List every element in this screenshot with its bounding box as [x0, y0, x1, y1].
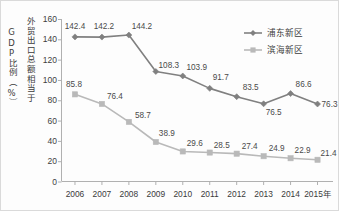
data-point-label: 83.5 [243, 83, 259, 92]
series-marker [288, 91, 294, 97]
x-tick-label: 2009 [147, 189, 166, 199]
legend-marker [250, 30, 256, 36]
chart-legend: 浦东新区滨海新区 [244, 27, 303, 55]
data-point-label: 85.8 [66, 80, 82, 89]
legend-marker [250, 47, 255, 52]
data-point-label: 27.4 [242, 142, 258, 151]
data-point-label: 76.3 [322, 100, 338, 109]
series-marker [288, 156, 293, 161]
data-point-label: 144.2 [132, 22, 153, 31]
x-axis-tick-labels: 2006200720082009201020112012201320142015… [66, 189, 331, 199]
y-axis-tick-marks [58, 20, 62, 183]
series-marker [234, 151, 239, 156]
series-data-labels: 142.4142.2144.2108.3103.991.783.576.586.… [65, 22, 338, 158]
data-point-label: 24.9 [269, 144, 285, 153]
series-marker [315, 101, 321, 107]
x-tick-label: 2015年 [304, 189, 331, 199]
data-point-label: 28.5 [214, 141, 230, 150]
series-marker [153, 139, 158, 144]
data-point-label: 86.6 [296, 80, 312, 89]
data-point-label: 22.9 [295, 146, 311, 155]
series-marker [261, 101, 267, 107]
series-marker [99, 34, 105, 40]
y-tick-label: 20 [48, 156, 58, 166]
data-point-label: 91.7 [213, 73, 229, 82]
series-marker [126, 119, 131, 124]
x-tick-label: 2012 [227, 189, 246, 199]
chart-figure: GDP比例（%） 外贸出口总额相当于 160140120100806040200… [0, 0, 339, 211]
y-tick-label: 80 [48, 95, 58, 105]
y-tick-label: 40 [48, 136, 58, 146]
data-point-label: 103.9 [187, 63, 208, 72]
series-marker [72, 92, 77, 97]
data-point-label: 58.7 [135, 111, 151, 120]
series-marker [180, 149, 185, 154]
legend-label: 浦东新区 [267, 27, 303, 38]
y-tick-label: 160 [43, 14, 57, 24]
legend-label: 滨海新区 [267, 44, 303, 55]
series-marker [207, 85, 213, 91]
x-tick-label: 2013 [254, 189, 273, 199]
y-axis-tick-labels: 160140120100806040200 [43, 14, 57, 187]
series-marker [207, 150, 212, 155]
y-tick-label: 60 [48, 116, 58, 126]
data-point-label: 108.3 [159, 61, 180, 70]
data-point-label: 76.5 [266, 108, 282, 117]
x-tick-label: 2008 [120, 189, 139, 199]
x-tick-label: 2010 [173, 189, 192, 199]
data-point-label: 38.9 [159, 129, 175, 138]
data-point-label: 142.2 [94, 22, 115, 31]
data-point-label: 21.4 [321, 149, 337, 158]
y-tick-label: 0 [52, 177, 57, 187]
y-tick-label: 140 [43, 34, 57, 44]
series-marker [72, 34, 78, 40]
y-tick-label: 100 [43, 75, 57, 85]
series-marker [261, 154, 266, 159]
x-tick-label: 2014 [281, 189, 300, 199]
data-point-label: 29.6 [187, 139, 203, 148]
series-marker [315, 157, 320, 162]
y-tick-label: 120 [43, 55, 57, 65]
line-chart-plot: 160140120100806040200 200620072008200920… [1, 1, 339, 211]
x-tick-label: 2006 [66, 189, 85, 199]
x-tick-label: 2007 [93, 189, 112, 199]
data-point-label: 142.4 [65, 22, 86, 31]
series-marker [99, 101, 104, 106]
data-point-label: 76.4 [107, 92, 123, 101]
series-marker [234, 94, 240, 100]
x-axis-tick-marks [75, 182, 318, 186]
series-marker [180, 73, 186, 79]
x-tick-label: 2011 [201, 189, 219, 199]
